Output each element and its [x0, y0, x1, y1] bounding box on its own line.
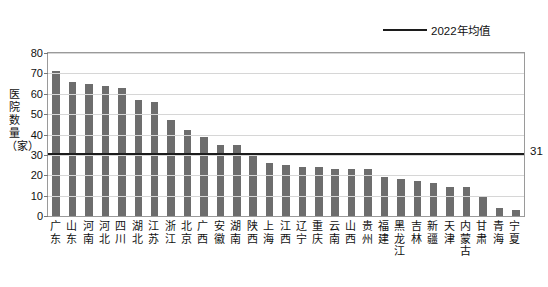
- x-tick-label: 广西: [195, 220, 211, 245]
- x-tick-label: 上海: [261, 220, 277, 245]
- bar: [414, 181, 422, 216]
- x-tick-label: 重庆: [310, 220, 326, 245]
- y-tick-mark: [44, 114, 48, 115]
- x-tick-label: 湖北: [129, 220, 145, 245]
- bar: [381, 177, 389, 216]
- x-tick-label: 福建: [375, 220, 391, 245]
- x-tick-label: 内蒙古: [458, 220, 474, 258]
- bar: [151, 102, 159, 216]
- x-tick-label: 贵州: [359, 220, 375, 245]
- y-tick-mark: [44, 94, 48, 95]
- x-tick-label: 青海: [490, 220, 506, 245]
- x-tick-label: 黑龙江: [392, 220, 408, 258]
- y-gridline: [48, 94, 524, 95]
- bar: [463, 187, 471, 216]
- bar: [184, 130, 192, 216]
- y-gridline: [48, 175, 524, 176]
- x-tick-label: 云南: [326, 220, 342, 245]
- y-tick-label: 10: [31, 190, 43, 202]
- bar: [496, 208, 504, 216]
- bar: [282, 165, 290, 216]
- average-value-label: 31: [530, 145, 543, 157]
- bar: [266, 163, 274, 216]
- y-tick-label: 0: [37, 210, 43, 222]
- x-tick-label: 宁夏: [507, 220, 523, 245]
- x-tick-label: 山西: [343, 220, 359, 245]
- x-tick-label: 四川: [113, 220, 129, 245]
- bar: [135, 100, 143, 216]
- bar: [446, 187, 454, 216]
- y-tick-label: 40: [31, 129, 43, 141]
- x-tick-label: 广东: [47, 220, 63, 245]
- bar: [479, 196, 487, 216]
- y-gridline: [48, 114, 524, 115]
- x-tick-label: 江苏: [146, 220, 162, 245]
- bar: [512, 210, 520, 216]
- y-tick-label: 80: [31, 47, 43, 59]
- y-tick-mark: [44, 175, 48, 176]
- x-tick-label: 山东: [64, 220, 80, 245]
- x-axis-labels: 广东山东河南河北四川湖北江苏浙江北京广西安徽湖南陕西上海江西辽宁重庆云南山西贵州…: [47, 220, 525, 282]
- y-gridline: [48, 135, 524, 136]
- plot-area: 01020304050607080: [47, 52, 525, 217]
- y-tick-mark: [44, 135, 48, 136]
- legend: 2022年均值: [383, 22, 490, 38]
- x-tick-label: 吉林: [408, 220, 424, 245]
- y-tick-label: 20: [31, 169, 43, 181]
- y-tick-mark: [44, 53, 48, 54]
- y-gridline: [48, 53, 524, 54]
- x-tick-label: 新疆: [425, 220, 441, 245]
- average-line: [48, 153, 524, 155]
- y-gridline: [48, 73, 524, 74]
- y-tick-mark: [44, 155, 48, 156]
- x-tick-label: 湖南: [228, 220, 244, 245]
- y-tick-mark: [44, 216, 48, 217]
- legend-label: 2022年均值: [431, 22, 490, 38]
- x-tick-label: 河北: [96, 220, 112, 245]
- y-axis-title: 医院数量（家）: [6, 88, 22, 153]
- x-tick-label: 安徽: [211, 220, 227, 245]
- y-tick-label: 30: [31, 149, 43, 161]
- x-tick-label: 河南: [80, 220, 96, 245]
- x-tick-label: 天津: [441, 220, 457, 245]
- y-gridline: [48, 155, 524, 156]
- x-tick-label: 甘肃: [474, 220, 490, 245]
- bar: [118, 88, 126, 216]
- bar: [200, 137, 208, 216]
- bar: [397, 179, 405, 216]
- x-tick-label: 辽宁: [293, 220, 309, 245]
- bar: [430, 183, 438, 216]
- chart-figure: 2022年均值 医院数量（家） 01020304050607080 广东山东河南…: [0, 0, 548, 287]
- y-tick-label: 50: [31, 108, 43, 120]
- x-tick-label: 北京: [179, 220, 195, 245]
- y-tick-label: 70: [31, 67, 43, 79]
- y-tick-label: 60: [31, 88, 43, 100]
- y-gridline: [48, 196, 524, 197]
- x-tick-label: 浙江: [162, 220, 178, 245]
- legend-line-icon: [383, 29, 427, 31]
- x-tick-label: 陕西: [244, 220, 260, 245]
- x-tick-label: 江西: [277, 220, 293, 245]
- y-tick-mark: [44, 73, 48, 74]
- y-tick-mark: [44, 196, 48, 197]
- bar: [249, 155, 257, 216]
